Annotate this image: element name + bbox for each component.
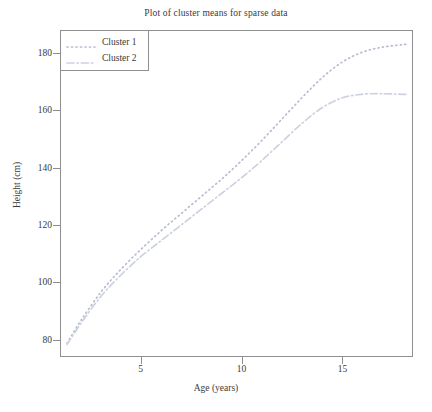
x-tick-mark (342, 357, 343, 364)
x-axis-title: Age (years) (0, 383, 432, 393)
y-tick-mark (53, 168, 60, 169)
x-tick-label: 5 (121, 364, 161, 374)
series-layer (67, 44, 408, 344)
legend-label-cluster-1: Cluster 1 (102, 38, 137, 48)
legend: Cluster 1 Cluster 2 (60, 30, 149, 71)
series-line-cluster-1 (67, 44, 408, 343)
y-tick-mark (53, 53, 60, 54)
y-tick-mark (53, 282, 60, 283)
plot-canvas (61, 31, 412, 356)
chart-figure: Plot of cluster means for sparse data 80… (0, 0, 432, 412)
y-tick-mark (53, 110, 60, 111)
y-axis-tick-labels: 80100120140160180 (0, 0, 52, 412)
y-tick-label: 160 (10, 105, 52, 115)
y-axis-title: Height (cm) (12, 135, 22, 235)
x-tick-label: 10 (222, 364, 262, 374)
y-tick-label: 80 (10, 335, 52, 345)
legend-label-cluster-2: Cluster 2 (102, 54, 137, 64)
x-tick-mark (242, 357, 243, 364)
legend-swatch-cluster-2 (66, 54, 96, 64)
legend-item-cluster-1: Cluster 1 (66, 35, 143, 51)
y-tick-label: 100 (10, 277, 52, 287)
series-line-cluster-2 (67, 94, 408, 345)
legend-swatch-cluster-1 (66, 38, 96, 48)
x-tick-mark (141, 357, 142, 364)
x-tick-label: 15 (322, 364, 362, 374)
y-tick-mark (53, 340, 60, 341)
plot-area (60, 30, 413, 357)
y-tick-label: 180 (10, 48, 52, 58)
chart-title: Plot of cluster means for sparse data (0, 8, 432, 18)
y-tick-mark (53, 225, 60, 226)
legend-item-cluster-2: Cluster 2 (66, 51, 143, 67)
